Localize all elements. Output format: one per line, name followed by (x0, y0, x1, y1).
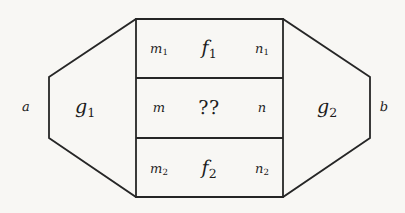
label-region-left: g1 (75, 98, 95, 117)
cell-bottom-center-base: f (201, 157, 208, 179)
label-outer-right: b (380, 101, 388, 114)
cell-top-center-base: f (201, 37, 208, 59)
cell-bottom-left-sub: 2 (163, 168, 168, 178)
label-region-right: g2 (317, 98, 337, 117)
label-region-left-base: g (75, 96, 87, 118)
cell-top-center: f1 (201, 39, 216, 58)
cell-bottom-right-sub: 2 (264, 168, 269, 178)
cell-bottom-left: m2 (150, 163, 168, 176)
cell-middle-center-base: ?? (198, 97, 219, 119)
cell-middle-right-base: n (258, 101, 266, 116)
diagram-canvas: a b g1 g2 m1 f1 n1 m ?? n m2 f2 n2 (0, 0, 405, 213)
cell-top-left-sub: 1 (163, 48, 168, 58)
cell-bottom-right: n2 (255, 163, 269, 176)
label-outer-left-base: a (22, 100, 30, 115)
cell-bottom-center-sub: 2 (209, 165, 217, 180)
cell-middle-right: n (258, 102, 266, 115)
cell-top-right-base: n (255, 42, 263, 57)
cell-top-right-sub: 1 (264, 48, 269, 58)
cell-top-left: m1 (150, 43, 168, 56)
cell-middle-center: ?? (198, 99, 219, 118)
label-outer-right-base: b (380, 100, 388, 115)
cell-top-center-sub: 1 (209, 45, 217, 60)
label-region-left-sub: 1 (87, 104, 95, 119)
cell-middle-left-base: m (153, 101, 165, 116)
label-region-right-base: g (317, 96, 329, 118)
cell-bottom-left-base: m (150, 162, 162, 177)
label-outer-left: a (22, 101, 30, 114)
cell-bottom-right-base: n (255, 162, 263, 177)
cell-bottom-center: f2 (201, 159, 216, 178)
cell-top-right: n1 (255, 43, 269, 56)
cell-top-left-base: m (150, 42, 162, 57)
label-region-right-sub: 2 (329, 104, 337, 119)
cell-middle-left: m (153, 102, 165, 115)
